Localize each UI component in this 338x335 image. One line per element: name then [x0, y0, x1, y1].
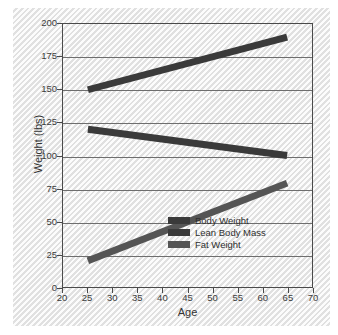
y-tick-label: 175 — [23, 51, 57, 61]
x-tick-label: 60 — [250, 293, 276, 303]
x-tick-label: 35 — [124, 293, 150, 303]
y-tick-label: 100 — [23, 151, 57, 161]
x-tick-label: 30 — [99, 293, 125, 303]
chart-legend: Body WeightLean Body MassFat Weight — [166, 213, 269, 253]
x-axis-title: Age — [62, 306, 313, 318]
x-tick-mark — [62, 288, 63, 293]
legend-swatch — [168, 229, 190, 236]
x-tick-label: 25 — [74, 293, 100, 303]
y-tick-label: 0 — [23, 283, 57, 293]
legend-item: Lean Body Mass — [168, 227, 266, 238]
x-tick-label: 70 — [300, 293, 326, 303]
data-series-line — [88, 37, 287, 90]
x-tick-mark — [263, 288, 264, 293]
x-tick-mark — [87, 288, 88, 293]
x-tick-mark — [188, 288, 189, 293]
x-tick-mark — [213, 288, 214, 293]
legend-item: Fat Weight — [168, 239, 266, 250]
x-tick-mark — [313, 288, 314, 293]
chart-figure: Weight (lbs) 0255075100125150175200 2025… — [13, 8, 330, 326]
x-tick-label: 20 — [49, 293, 75, 303]
legend-item: Body Weight — [168, 215, 266, 226]
y-tick-label: 200 — [23, 18, 57, 28]
y-tick-label: 150 — [23, 84, 57, 94]
legend-label: Body Weight — [195, 216, 249, 226]
x-tick-label: 65 — [275, 293, 301, 303]
y-tick-label: 125 — [23, 117, 57, 127]
y-tick-label: 75 — [23, 184, 57, 194]
x-tick-mark — [288, 288, 289, 293]
x-tick-mark — [112, 288, 113, 293]
x-tick-mark — [137, 288, 138, 293]
x-tick-mark — [238, 288, 239, 293]
x-tick-mark — [162, 288, 163, 293]
legend-label: Fat Weight — [195, 240, 241, 250]
data-series-line — [88, 129, 287, 155]
x-tick-label: 45 — [175, 293, 201, 303]
legend-label: Lean Body Mass — [195, 228, 266, 238]
y-tick-label: 25 — [23, 250, 57, 260]
x-tick-label: 55 — [225, 293, 251, 303]
legend-swatch — [168, 241, 190, 248]
x-tick-label: 40 — [149, 293, 175, 303]
x-tick-label: 50 — [200, 293, 226, 303]
y-tick-label: 50 — [23, 217, 57, 227]
legend-swatch — [168, 217, 190, 224]
